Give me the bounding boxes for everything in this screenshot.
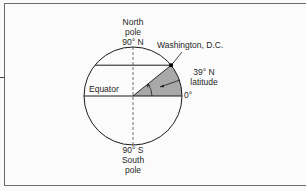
zero-degree-label: 0° [184,90,192,100]
south-pole-label-line2: South [122,155,144,165]
north-pole-label: North pole 90° N [122,17,143,47]
south-pole-label: 90° S South pole [122,145,144,175]
washington-dc-marker [169,63,173,67]
latitude-label: 39° N latitude [190,67,217,87]
latitude-label-line1: 39° N [190,67,217,77]
earth-cross-section-diagram [0,0,306,191]
equator-label: Equator [89,84,119,94]
latitude-label-line2: latitude [190,77,217,87]
north-pole-label-line1: North [122,17,143,27]
south-pole-label-line1: 90° S [122,145,144,155]
city-label: Washington, D.C. [157,40,223,50]
city-pointer-line [172,52,183,65]
north-pole-label-line2: pole [122,27,143,37]
north-pole-label-line3: 90° N [122,37,143,47]
south-pole-label-line3: pole [122,165,144,175]
